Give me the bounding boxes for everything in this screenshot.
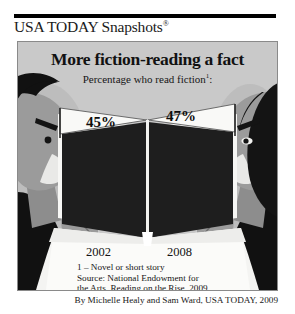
book-spine xyxy=(146,120,149,240)
book-left-cover xyxy=(62,122,147,238)
value-label-2002: 45% xyxy=(86,114,116,130)
left-figure-eye xyxy=(45,137,52,144)
registered-trademark-icon: ® xyxy=(163,19,169,28)
credit-line: By Michelle Healy and Sam Ward, USA TODA… xyxy=(75,294,278,306)
usa-today-snapshot: USA TODAY Snapshots® xyxy=(0,0,295,314)
book-right-cover xyxy=(148,122,233,238)
chart-title: More fiction-reading a fact xyxy=(18,49,277,69)
illustration-panel: More fiction-reading a fact Percentage w… xyxy=(17,41,278,291)
footnote-block: 1 – Novel or short story Source: Nationa… xyxy=(77,262,267,291)
chart-subtitle-suffix: : xyxy=(209,73,212,85)
category-label-2008: 2008 xyxy=(167,245,192,259)
value-label-2008: 47% xyxy=(166,108,196,124)
footnote-source-line-2: the Arts, Reading on the Rise, 2009 xyxy=(77,283,267,291)
right-figure-eye-pupil xyxy=(243,138,248,143)
chart-subtitle-text: Percentage who read fiction xyxy=(83,73,206,85)
category-label-2002: 2002 xyxy=(86,245,111,259)
footnote-source-line-1: Source: National Endowment for xyxy=(77,273,267,284)
brand-title: USA TODAY Snapshots® xyxy=(14,17,169,37)
chart-subtitle: Percentage who read fiction1: xyxy=(18,72,277,86)
brand-name: USA TODAY Snapshots xyxy=(14,18,163,35)
footnote-definition: 1 – Novel or short story xyxy=(77,262,267,273)
